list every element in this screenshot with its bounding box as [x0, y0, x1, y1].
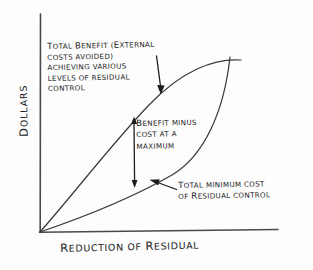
gap-annotation-label: BENEFIT MINUS COST AT A MAXIMUM [136, 117, 197, 152]
hand-drawn-economics-chart: TOTAL BENEFIT (EXTERNAL COSTS AVOIDED) A… [0, 0, 313, 270]
x-axis-title-cap1: R [60, 241, 69, 255]
benefit-label-line2: COSTS AVOIDED) [47, 51, 113, 61]
benefit-annotation-label: TOTAL BENEFIT (EXTERNAL COSTS AVOIDED) A… [47, 39, 156, 95]
gap-measure-arrow-head-bottom [132, 180, 138, 188]
gap-label-line3: MAXIMUM [136, 141, 174, 151]
gap-label-line1: ENEFIT MINUS [142, 118, 197, 128]
benefit-label-line5: CONTROL [48, 84, 85, 94]
x-axis-title-part1: EDUCTION OF [69, 241, 146, 254]
x-axis-title-cap2: R [145, 239, 154, 253]
cost-label-line2b: ESIDUAL CONTROL [198, 191, 271, 201]
benefit-label-line1a: OTAL [53, 41, 75, 50]
cost-label-line1: OTAL MINIMUM COST [184, 179, 265, 190]
y-axis-title-cap1: D [16, 127, 30, 137]
benefit-label-line3: ACHIEVING VARIOUS [47, 62, 126, 73]
benefit-label-line4: LEVELS OF RESIDUAL [48, 72, 130, 83]
gap-label-line2: COST AT A [136, 130, 177, 140]
cost-annotation-label: TOTAL MINIMUM COST OF RESIDUAL CONTROL [178, 178, 270, 203]
benefit-annotation-arrow-shaft [157, 56, 161, 86]
y-axis-title: DOLLARS [18, 71, 31, 151]
benefit-annotation-arrow-head [157, 85, 164, 95]
x-axis-title-part2: ESIDUAL [154, 240, 200, 252]
y-axis-title-part1: OLLARS [18, 85, 30, 128]
x-axis-line [40, 230, 279, 233]
benefit-label-line1b: ENEFIT ( [81, 41, 114, 51]
benefit-label-line1c: XTERNAL [119, 40, 154, 50]
gap-measure-shaft [134, 120, 135, 184]
cost-label-line2a: OF [178, 192, 191, 201]
